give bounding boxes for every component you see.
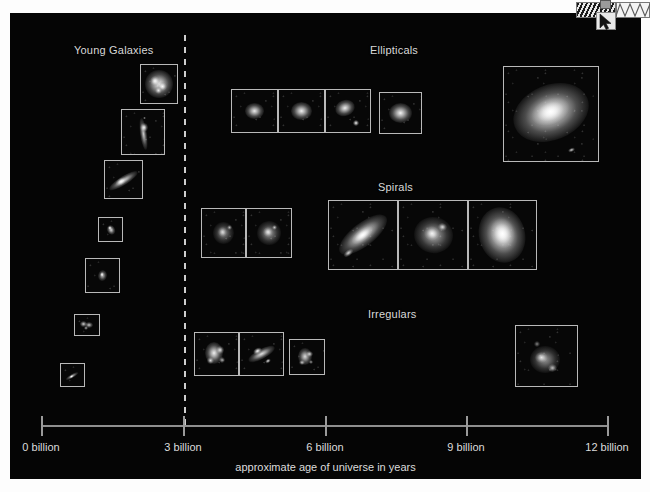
section-label-irregulars: Irregulars — [368, 308, 416, 320]
starfield-noise — [99, 218, 122, 241]
elliptical-2 — [278, 89, 325, 133]
mouse-pointer-icon — [599, 14, 614, 30]
scrollbar-cursor-artifact[interactable] — [576, 0, 650, 30]
starfield-noise — [469, 201, 536, 269]
axis-tick-9 — [466, 416, 468, 436]
starfield-noise — [202, 209, 245, 257]
young-galaxy-1 — [140, 64, 178, 104]
triangle-wave-icon — [616, 2, 650, 18]
spiral-small-1 — [201, 208, 246, 258]
axis-tick-label-3: 3 billion — [164, 441, 201, 453]
section-label-young-galaxies: Young Galaxies — [74, 44, 153, 56]
young-galaxy-6 — [74, 314, 100, 336]
section-label-ellipticals: Ellipticals — [370, 44, 418, 56]
axis-tick-0 — [41, 416, 43, 436]
dashed-epoch-divider — [184, 35, 186, 428]
elliptical-large — [503, 66, 599, 162]
irregular-4 — [515, 325, 578, 387]
elliptical-1 — [231, 89, 278, 133]
starfield-noise — [240, 333, 283, 375]
irregular-1 — [194, 332, 239, 376]
elliptical-4 — [379, 92, 422, 134]
starfield-noise — [105, 161, 142, 198]
spiral-large-2 — [398, 200, 468, 270]
young-galaxy-3 — [104, 160, 143, 199]
axis-tick-6 — [325, 416, 327, 436]
spiral-small-2 — [246, 208, 292, 258]
axis-tick-label-0: 0 billion — [22, 441, 59, 453]
starfield-noise — [380, 93, 421, 133]
irregular-3 — [289, 339, 325, 375]
young-galaxy-7 — [60, 363, 85, 387]
starfield-noise — [329, 201, 397, 269]
starfield-noise — [75, 315, 99, 335]
starfield-noise — [279, 90, 324, 132]
starfield-noise — [399, 201, 467, 269]
scroll-knob-icon[interactable] — [600, 0, 611, 9]
starfield-noise — [247, 209, 291, 257]
spiral-large-1 — [328, 200, 398, 270]
elliptical-3 — [325, 89, 371, 133]
starfield-noise — [232, 90, 277, 132]
young-galaxy-2 — [121, 109, 165, 155]
axis-tick-12 — [607, 416, 609, 436]
axis-tick-label-6: 6 billion — [306, 441, 343, 453]
young-galaxy-4 — [98, 217, 123, 242]
starfield-noise — [326, 90, 370, 132]
section-label-spirals: Spirals — [378, 181, 413, 193]
galaxy-timeline-figure: Young Galaxies Ellipticals Spirals Irreg… — [10, 13, 641, 479]
irregular-2 — [239, 332, 284, 376]
spiral-large-3 — [468, 200, 537, 270]
starfield-noise — [504, 67, 598, 161]
starfield-noise — [141, 65, 177, 103]
starfield-noise — [61, 364, 84, 386]
young-galaxy-5 — [85, 258, 120, 293]
axis-tick-label-12: 12 billion — [585, 441, 628, 453]
starfield-noise — [290, 340, 324, 374]
starfield-noise — [122, 110, 164, 154]
axis-tick-label-9: 9 billion — [447, 441, 484, 453]
starfield-noise — [86, 259, 119, 292]
axis-caption: approximate age of universe in years — [10, 461, 641, 473]
timeline-axis-line — [41, 425, 607, 427]
starfield-noise — [516, 326, 577, 386]
starfield-noise — [195, 333, 238, 375]
axis-tick-3 — [183, 416, 185, 436]
